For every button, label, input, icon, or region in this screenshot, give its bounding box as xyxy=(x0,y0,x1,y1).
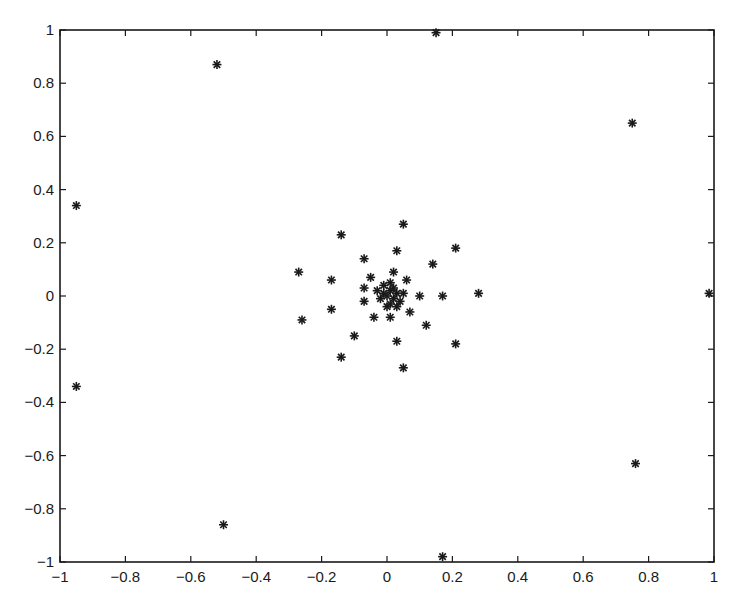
asterisk-marker xyxy=(386,278,395,287)
asterisk-marker xyxy=(337,353,346,362)
x-tick-label: 0.8 xyxy=(638,568,659,585)
asterisk-marker xyxy=(350,331,359,340)
y-tick-label: −1 xyxy=(37,553,54,570)
y-tick-label: −0.4 xyxy=(24,393,54,410)
y-tick-label: −0.2 xyxy=(24,340,54,357)
asterisk-marker xyxy=(360,284,369,293)
x-tick-label: −1 xyxy=(51,568,68,585)
y-tick-label: 0 xyxy=(46,287,54,304)
asterisk-marker xyxy=(432,28,441,37)
x-tick-label: −0.2 xyxy=(307,568,337,585)
x-tick-label: −0.8 xyxy=(111,568,141,585)
asterisk-marker xyxy=(360,297,369,306)
asterisk-marker xyxy=(327,305,336,314)
y-tick-label: −0.6 xyxy=(24,447,54,464)
x-tick-label: 0.2 xyxy=(442,568,463,585)
asterisk-marker xyxy=(386,313,395,322)
x-tick-label: −0.4 xyxy=(241,568,271,585)
asterisk-marker xyxy=(219,520,228,529)
asterisk-marker xyxy=(628,119,637,128)
asterisk-marker xyxy=(294,268,303,277)
asterisk-marker xyxy=(389,268,398,277)
x-tick-label: 0.4 xyxy=(507,568,528,585)
x-tick-label: 0.6 xyxy=(573,568,594,585)
asterisk-marker xyxy=(415,292,424,301)
asterisk-marker xyxy=(392,302,401,311)
asterisk-marker xyxy=(366,273,375,282)
y-tick-label: −0.8 xyxy=(24,500,54,517)
asterisk-marker xyxy=(373,286,382,295)
asterisk-marker xyxy=(438,292,447,301)
asterisk-marker xyxy=(297,315,306,324)
asterisk-marker xyxy=(428,260,437,269)
asterisk-marker xyxy=(72,382,81,391)
asterisk-marker xyxy=(451,244,460,253)
asterisk-marker xyxy=(327,276,336,285)
asterisk-marker xyxy=(399,220,408,229)
asterisk-marker xyxy=(405,307,414,316)
asterisk-marker xyxy=(360,254,369,263)
asterisk-marker xyxy=(399,289,408,298)
asterisk-marker xyxy=(451,339,460,348)
asterisk-marker xyxy=(399,363,408,372)
y-tick-label: 0.8 xyxy=(33,74,54,91)
asterisk-marker xyxy=(631,459,640,468)
asterisk-marker xyxy=(438,552,447,561)
x-tick-label: 1 xyxy=(710,568,718,585)
x-tick-label: −0.6 xyxy=(176,568,206,585)
asterisk-marker xyxy=(392,246,401,255)
asterisk-marker xyxy=(402,276,411,285)
asterisk-marker xyxy=(212,60,221,69)
y-tick-label: 0.6 xyxy=(33,127,54,144)
asterisk-marker xyxy=(72,201,81,210)
y-tick-label: 1 xyxy=(46,21,54,38)
scatter-plot: −1−0.8−0.6−0.4−0.200.20.40.60.81 10.80.6… xyxy=(0,0,734,606)
asterisk-marker xyxy=(376,294,385,303)
asterisk-marker xyxy=(392,337,401,346)
asterisk-marker xyxy=(422,321,431,330)
x-tick-label: 0 xyxy=(383,568,391,585)
data-points xyxy=(72,28,714,561)
asterisk-marker xyxy=(369,313,378,322)
x-axis-ticks: −1−0.8−0.6−0.4−0.200.20.40.60.81 xyxy=(51,30,718,585)
asterisk-marker xyxy=(474,289,483,298)
y-tick-label: 0.2 xyxy=(33,234,54,251)
y-tick-label: 0.4 xyxy=(33,181,54,198)
asterisk-marker xyxy=(337,230,346,239)
asterisk-marker xyxy=(383,302,392,311)
y-axis-ticks: 10.80.60.40.20−0.2−0.4−0.6−0.8−1 xyxy=(24,21,714,570)
asterisk-marker xyxy=(705,289,714,298)
